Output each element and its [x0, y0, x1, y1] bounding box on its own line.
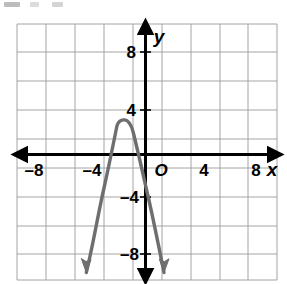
y-tick-label-neg-4: –4	[120, 188, 139, 207]
y-tick-label-neg-8: –8	[120, 245, 139, 264]
x-tick-label-neg-8: –8	[25, 161, 44, 180]
x-tick-label-4: 4	[199, 161, 209, 180]
coordinate-plane-figure: 8 4 –4 –8 –8 –4 4 8 O y x	[0, 0, 287, 284]
origin-label: O	[154, 161, 167, 180]
y-axis-label: y	[153, 26, 166, 47]
y-tick-label-8: 8	[127, 43, 136, 62]
x-tick-label-neg-4: –4	[83, 161, 102, 180]
x-tick-label-8: 8	[251, 161, 260, 180]
y-tick-label-4: 4	[127, 101, 137, 120]
x-axis-label: x	[266, 159, 279, 180]
